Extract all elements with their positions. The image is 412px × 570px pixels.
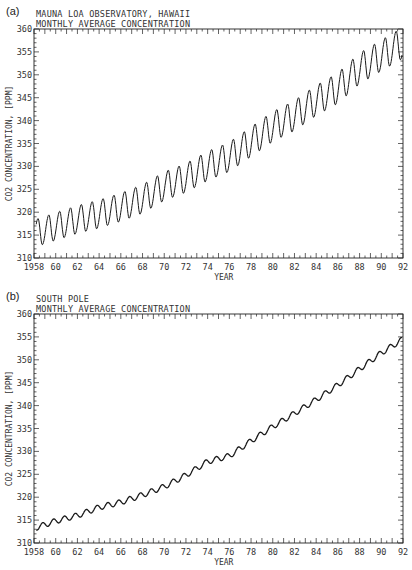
y-tick-label: 335 — [17, 139, 32, 149]
y-axis-title: CO2 CONCENTRATION, [PPM] — [5, 86, 14, 202]
x-tick-label: 62 — [72, 262, 82, 272]
y-tick-label: 355 — [17, 332, 32, 342]
y-tick-label: 360 — [17, 24, 32, 34]
x-tick-label: 76 — [224, 547, 234, 557]
x-tick-label: 78 — [246, 262, 256, 272]
plot-frame — [34, 314, 403, 543]
y-tick-label: 310 — [17, 538, 32, 548]
panel-mauna-loa: (a) MAUNA LOA OBSERVATORY, HAWAII MONTHL… — [0, 0, 412, 285]
y-tick-label: 315 — [17, 515, 32, 525]
y-tick-label: 320 — [17, 207, 32, 217]
y-tick-label: 325 — [17, 184, 32, 194]
x-tick-label: 70 — [159, 547, 169, 557]
y-tick-label: 315 — [17, 230, 32, 240]
x-tick-label: 90 — [376, 547, 386, 557]
y-tick-label: 320 — [17, 492, 32, 502]
x-tick-label: 88 — [354, 547, 364, 557]
y-tick-label: 340 — [17, 401, 32, 411]
x-tick-label: 62 — [72, 547, 82, 557]
y-tick-label: 350 — [17, 70, 32, 80]
x-tick-label: 1958 — [24, 262, 44, 272]
x-tick-label: 60 — [51, 547, 61, 557]
y-tick-label: 310 — [17, 253, 32, 263]
x-tick-label: 82 — [289, 547, 299, 557]
x-tick-label: 64 — [94, 262, 104, 272]
x-tick-label: 76 — [224, 262, 234, 272]
y-tick-label: 355 — [17, 47, 32, 57]
x-tick-label: 90 — [376, 262, 386, 272]
plot-frame — [34, 29, 403, 258]
co2-series-line — [36, 31, 402, 244]
panel-south-pole: (b) SOUTH POLE MONTHLY AVERAGE CONCENTRA… — [0, 285, 412, 570]
x-tick-label: 86 — [333, 547, 343, 557]
y-tick-label: 360 — [17, 309, 32, 319]
x-tick-label: 1958 — [24, 547, 44, 557]
x-tick-label: 74 — [203, 262, 213, 272]
x-tick-label: 72 — [181, 262, 191, 272]
y-tick-label: 345 — [17, 93, 32, 103]
x-tick-label: 60 — [51, 262, 61, 272]
x-tick-label: 80 — [268, 262, 278, 272]
x-tick-label: 82 — [289, 262, 299, 272]
x-tick-label: 68 — [137, 262, 147, 272]
y-tick-label: 350 — [17, 355, 32, 365]
x-tick-label: 92 — [398, 262, 408, 272]
x-tick-label: 92 — [398, 547, 408, 557]
y-tick-label: 330 — [17, 161, 32, 171]
x-tick-label: 84 — [311, 547, 321, 557]
x-tick-label: 70 — [159, 262, 169, 272]
x-tick-label: 84 — [311, 262, 321, 272]
y-tick-label: 345 — [17, 378, 32, 388]
x-tick-label: 86 — [333, 262, 343, 272]
x-tick-label: 66 — [116, 547, 126, 557]
x-axis-title: YEAR — [214, 558, 233, 567]
x-axis-title: YEAR — [214, 273, 233, 282]
x-tick-label: 68 — [137, 547, 147, 557]
chart-south-pole: 1958606264666870727476788082848688909231… — [0, 285, 412, 570]
x-tick-label: 72 — [181, 547, 191, 557]
y-tick-label: 325 — [17, 469, 32, 479]
y-tick-label: 340 — [17, 116, 32, 126]
x-tick-label: 80 — [268, 547, 278, 557]
y-tick-label: 335 — [17, 424, 32, 434]
x-tick-label: 78 — [246, 547, 256, 557]
x-tick-label: 88 — [354, 262, 364, 272]
co2-series-line — [36, 338, 402, 530]
chart-mauna-loa: 1958606264666870727476788082848688909231… — [0, 0, 412, 285]
x-tick-label: 64 — [94, 547, 104, 557]
x-tick-label: 66 — [116, 262, 126, 272]
y-tick-label: 330 — [17, 446, 32, 456]
x-tick-label: 74 — [203, 547, 213, 557]
y-axis-title: CO2 CONCENTRATION, [PPM] — [5, 371, 14, 487]
